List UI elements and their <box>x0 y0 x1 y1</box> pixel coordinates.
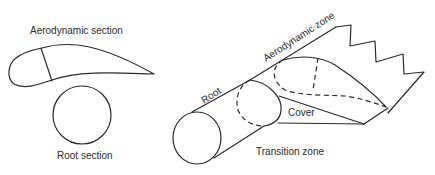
label-aerodynamic-zone: Aerodynamic zone <box>261 9 337 64</box>
root-section-circle <box>53 86 111 144</box>
root-end-circle <box>173 112 221 164</box>
label-cover: Cover <box>288 107 315 118</box>
label-aerodynamic-section: Aerodynamic section <box>30 25 123 36</box>
blade-diagram: Aerodynamic section Root section <box>0 0 435 175</box>
airfoil-section <box>9 44 154 86</box>
label-transition-zone: Transition zone <box>256 146 324 157</box>
label-root: Root <box>199 85 223 106</box>
label-root-section: Root section <box>57 150 113 161</box>
